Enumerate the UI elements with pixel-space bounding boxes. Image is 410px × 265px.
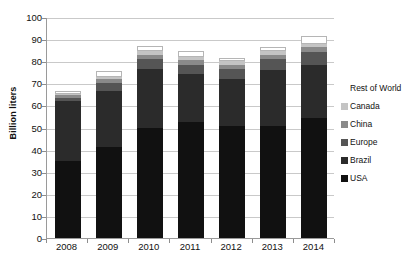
x-axis-tick-mark <box>128 239 129 243</box>
x-axis-tick-mark <box>169 239 170 243</box>
legend-item[interactable]: USA <box>341 169 410 187</box>
y-axis-tick-label: 100 <box>16 12 42 23</box>
bar-column[interactable] <box>55 18 81 238</box>
x-axis-tick-label: 2009 <box>90 241 126 252</box>
x-axis-tick-label: 2010 <box>131 241 167 252</box>
y-axis-tick-label: 60 <box>16 100 42 111</box>
bar-segment <box>260 126 286 238</box>
legend-item[interactable]: Brazil <box>341 151 410 169</box>
x-axis-tick-mark <box>252 239 253 243</box>
x-axis-tick-label: 2013 <box>254 241 290 252</box>
legend-swatch <box>341 175 348 182</box>
plot-area <box>46 18 334 239</box>
x-axis-tick-mark <box>293 239 294 243</box>
bar-column[interactable] <box>219 18 245 238</box>
bar-segment <box>137 59 163 69</box>
legend-swatch <box>341 157 348 164</box>
bar-column[interactable] <box>260 18 286 238</box>
chart-title: World Fuel Ethanol Production <box>60 0 300 2</box>
bar-column[interactable] <box>96 18 122 238</box>
legend-item-label: Brazil <box>350 156 371 165</box>
x-axis-tick-label: 2014 <box>295 241 331 252</box>
bar-segment <box>55 161 81 238</box>
bar-column[interactable] <box>178 18 204 238</box>
bar-segment <box>96 83 122 91</box>
bar-segment <box>260 59 286 70</box>
y-axis-tick-label: 90 <box>16 34 42 45</box>
bar-segment <box>219 79 245 127</box>
chart-legend: Rest of WorldCanadaChinaEuropeBrazilUSA <box>341 79 410 187</box>
bar-segment <box>178 122 204 238</box>
y-axis-tick-label: 40 <box>16 145 42 156</box>
y-axis-tick-label: 70 <box>16 78 42 89</box>
legend-item-label: Rest of World <box>350 84 401 93</box>
legend-swatch <box>341 139 348 146</box>
bar-segment <box>219 126 245 238</box>
bar-segment <box>219 69 245 79</box>
bar-segment <box>301 65 327 118</box>
legend-item[interactable]: Europe <box>341 133 410 151</box>
y-axis-tick-label: 50 <box>16 123 42 134</box>
x-axis-tick-mark <box>46 239 47 243</box>
y-axis-tick-label: 80 <box>16 56 42 67</box>
bar-segment <box>137 128 163 239</box>
bar-segment <box>55 101 81 161</box>
x-axis-tick-label: 2012 <box>213 241 249 252</box>
bar-segment <box>96 91 122 147</box>
stacked-bar-chart: World Fuel Ethanol Production Billion li… <box>0 0 410 265</box>
legend-swatch <box>341 121 348 128</box>
bar-segment <box>301 36 327 44</box>
bar-segment <box>137 69 163 128</box>
legend-item-label: China <box>350 120 372 129</box>
legend-item[interactable]: Canada <box>341 97 410 115</box>
x-axis-tick-labels: 2008200920102011201220132014 <box>46 241 334 257</box>
x-axis-tick-label: 2011 <box>172 241 208 252</box>
bar-column[interactable] <box>301 18 327 238</box>
x-axis-tick-label: 2008 <box>49 241 85 252</box>
y-axis-tick-label: 30 <box>16 167 42 178</box>
bar-segment <box>178 74 204 122</box>
bar-segment <box>178 65 204 75</box>
legend-item[interactable]: Rest of World <box>341 79 410 97</box>
y-axis-tick-label: 20 <box>16 189 42 200</box>
bar-column[interactable] <box>137 18 163 238</box>
x-axis-tick-mark <box>87 239 88 243</box>
y-axis-tick-label: 10 <box>16 211 42 222</box>
bar-segment <box>96 147 122 238</box>
legend-item-label: Europe <box>350 138 377 147</box>
legend-item-label: Canada <box>350 102 380 111</box>
bar-segment <box>301 52 327 64</box>
legend-swatch <box>341 103 348 110</box>
bar-series-group <box>47 18 334 238</box>
bar-segment <box>301 118 327 238</box>
bar-segment <box>260 70 286 126</box>
y-axis-tick-label: 0 <box>16 233 42 244</box>
legend-item[interactable]: China <box>341 115 410 133</box>
x-axis-tick-mark <box>211 239 212 243</box>
x-axis-tick-mark <box>334 239 335 243</box>
legend-item-label: USA <box>350 174 367 183</box>
